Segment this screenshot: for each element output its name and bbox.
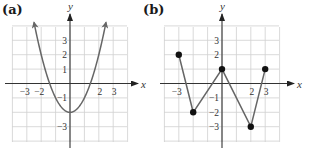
y-tick-label: 3 — [62, 36, 67, 46]
y-axis-label: y — [219, 0, 225, 12]
y-axis-label: y — [67, 0, 73, 12]
panel-label-b: (b) — [143, 2, 164, 17]
data-point — [262, 66, 268, 72]
x-tick-label: −3 — [172, 87, 182, 97]
chart-b: xy−32332−1−2−3 — [160, 0, 302, 148]
y-tick-label: 2 — [62, 50, 67, 60]
y-tick-label: −2 — [209, 108, 219, 118]
y-tick-label: 2 — [214, 50, 219, 60]
y-tick-label: 3 — [214, 36, 219, 46]
data-point — [190, 109, 196, 115]
x-tick-label: 3 — [264, 87, 269, 97]
y-tick-label: −3 — [209, 122, 219, 132]
chart-a: xy−3−223321−1−3 — [5, 0, 146, 148]
x-tick-label: 2 — [249, 87, 254, 97]
figure: (a) (b) xy−3−223321−1−3 xy−32332−1−2−3 — [0, 0, 309, 151]
data-point — [176, 52, 182, 58]
x-tick-label: −3 — [20, 87, 30, 97]
parabola-right-branch — [70, 22, 106, 112]
y-tick-label: −3 — [57, 122, 67, 132]
x-tick-label: 2 — [97, 87, 102, 97]
panel-label-a: (a) — [2, 2, 23, 17]
y-tick-label: 1 — [62, 65, 67, 75]
x-tick-label: −2 — [34, 87, 44, 97]
data-point — [219, 66, 225, 72]
x-axis-label: x — [296, 78, 302, 90]
x-tick-label: 3 — [112, 87, 117, 97]
y-tick-label: −1 — [209, 93, 219, 103]
data-point — [248, 124, 254, 130]
x-axis-label: x — [140, 78, 146, 90]
